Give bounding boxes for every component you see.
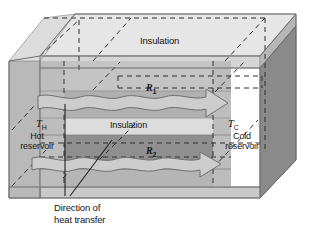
cold-reservoir-line-2: reservoir <box>212 141 272 151</box>
insulation-top-label: Insulation <box>140 36 179 47</box>
cold-reservoir-line-1: Cold <box>212 131 272 141</box>
resistance-1-label: R1 <box>146 82 156 96</box>
insulation-middle-label: Insulation <box>110 120 147 130</box>
caption-line-1: Direction of <box>54 202 105 214</box>
hot-reservoir-label: Hot reservoir <box>6 131 68 151</box>
hot-reservoir-line-1: Hot <box>6 131 68 141</box>
thermal-resistance-diagram: Insulation R1 Insulation R2 TH Hot reser… <box>0 0 313 237</box>
cold-temperature-label: TC <box>228 118 239 132</box>
resistance-2-subscript: 2 <box>153 151 157 158</box>
resistance-1-subscript: 1 <box>153 88 157 95</box>
hot-reservoir-line-2: reservoir <box>6 141 68 151</box>
box-bottom-edge <box>9 187 260 198</box>
heat-transfer-caption: Direction of heat transfer <box>54 202 105 226</box>
caption-line-2: heat transfer <box>54 214 105 226</box>
hot-temperature-label: TH <box>36 118 47 132</box>
resistance-2-label: R2 <box>146 145 156 159</box>
cold-reservoir-label: Cold reservoir <box>212 131 272 151</box>
